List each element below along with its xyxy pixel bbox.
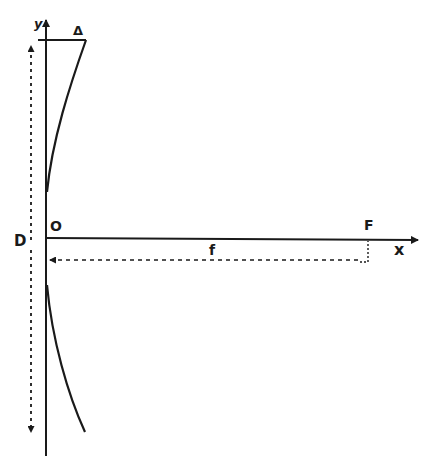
x-axis-label: x	[394, 240, 405, 259]
y-axis-label: y	[34, 16, 43, 31]
lens-curve-upper	[47, 40, 86, 192]
focal-point-tick	[360, 241, 368, 262]
diameter-label: D	[14, 232, 26, 250]
lens-diagram: y Δ O D F x f	[0, 0, 440, 469]
focal-length-label: f	[209, 242, 216, 258]
focus-label: F	[364, 217, 374, 233]
origin-label: O	[50, 218, 62, 234]
lens-curve-lower	[47, 285, 85, 432]
x-axis	[46, 238, 418, 240]
deviation-label: Δ	[73, 23, 83, 38]
